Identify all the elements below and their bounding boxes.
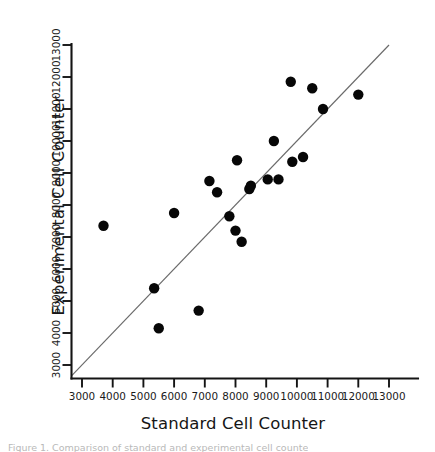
y-tick-label: 5000: [50, 288, 62, 314]
y-tick-label: 4000: [50, 320, 62, 346]
data-point: [204, 176, 214, 186]
data-point: [318, 104, 328, 114]
x-tick-label: 9000: [253, 390, 279, 402]
y-tick-label: 13000: [50, 28, 62, 61]
x-tick-label: 3000: [69, 390, 95, 402]
data-point: [273, 174, 283, 184]
x-tick-label: 5000: [130, 390, 156, 402]
figure-caption-text: Figure 1. Comparison of standard and exp…: [8, 444, 308, 452]
y-tick-label: 6000: [50, 256, 62, 282]
y-tick-label: 9000: [50, 160, 62, 186]
data-point: [236, 237, 246, 247]
y-tick-label: 8000: [50, 192, 62, 218]
data-point: [232, 155, 242, 165]
data-point: [246, 181, 256, 191]
identity-line: [71, 45, 389, 376]
y-tick-label: 11000: [50, 92, 62, 125]
x-tick-label: 13000: [372, 390, 405, 402]
data-point: [298, 152, 308, 162]
x-tick-label: 4000: [99, 390, 125, 402]
x-tick-label: 8000: [222, 390, 248, 402]
y-tick-label: 10000: [50, 124, 62, 157]
data-point: [269, 136, 279, 146]
data-point: [224, 211, 234, 221]
x-tick-label: 10000: [280, 390, 313, 402]
data-point: [193, 305, 203, 315]
data-point: [230, 225, 240, 235]
data-point: [98, 221, 108, 231]
y-tick-label: 7000: [50, 224, 62, 250]
data-point: [287, 157, 297, 167]
data-point: [169, 208, 179, 218]
x-axis-title: Standard Cell Counter: [72, 414, 394, 433]
y-tick-label: 12000: [50, 60, 62, 93]
x-tick-label: 6000: [161, 390, 187, 402]
data-point: [263, 174, 273, 184]
data-point: [212, 187, 222, 197]
x-tick-label: 11000: [311, 390, 344, 402]
figure-caption-cutoff: Figure 1. Comparison of standard and exp…: [8, 444, 308, 452]
x-tick-label: 7000: [192, 390, 218, 402]
plot-area: 3000400050006000700080009000100001100012…: [0, 0, 435, 452]
scatter-plot-figure: Experimental Cell Counter 30004000500060…: [0, 0, 435, 452]
data-point: [149, 283, 159, 293]
data-point: [154, 323, 164, 333]
y-tick-label: 3000: [50, 352, 62, 378]
data-point: [353, 89, 363, 99]
data-point: [307, 83, 317, 93]
data-point: [286, 77, 296, 87]
x-tick-label: 12000: [342, 390, 375, 402]
